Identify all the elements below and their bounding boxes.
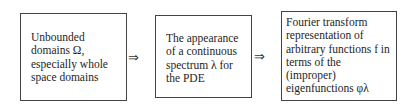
box-fourier-transform-text: Fourier transform representation of arbi… bbox=[286, 16, 390, 96]
box-fourier-transform: Fourier transform representation of arbi… bbox=[281, 11, 397, 101]
implies-arrow-2: ⇒ bbox=[254, 50, 265, 63]
box-continuous-spectrum: The appearance of a continuous spectrum … bbox=[155, 15, 252, 98]
box-unbounded-domains-text: Unbounded domains Ω, especially whole sp… bbox=[31, 31, 108, 84]
box-continuous-spectrum-text: The appearance of a continuous spectrum … bbox=[166, 32, 238, 85]
implies-arrow-1: ⇒ bbox=[128, 51, 139, 64]
box-unbounded-domains: Unbounded domains Ω, especially whole sp… bbox=[20, 13, 127, 101]
